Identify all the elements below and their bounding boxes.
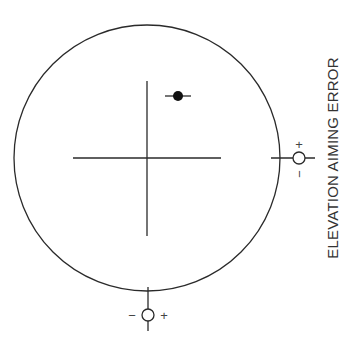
aiming-diagram: + − − +	[0, 0, 348, 338]
right-adjuster-knob-icon	[293, 152, 305, 164]
bottom-adjuster-knob-icon	[142, 309, 154, 321]
right-adjuster-plus: +	[295, 137, 303, 152]
bottom-adjuster-minus: −	[128, 308, 136, 323]
aim-point-dot	[173, 91, 183, 101]
bottom-adjuster-plus: +	[160, 308, 168, 323]
right-adjuster-minus: −	[292, 170, 307, 178]
elevation-aiming-error-label: ELEVATION AIMING ERROR	[324, 57, 341, 258]
